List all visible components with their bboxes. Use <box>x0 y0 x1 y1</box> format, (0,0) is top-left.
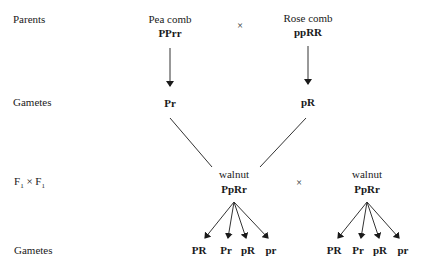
f1-right-phenotype: walnut <box>352 168 382 180</box>
line-gamete2-to-f1 <box>260 118 306 167</box>
parent1-genotype: PPrr <box>158 27 181 39</box>
parent1-phenotype: Pea comb <box>148 13 191 25</box>
line-gamete1-to-f1 <box>170 118 212 167</box>
f1-left-gamete: pr <box>266 244 277 256</box>
f1-right-gamete: pR <box>373 244 387 256</box>
f1-right-gamete: Pr <box>352 244 364 256</box>
f1-cross-symbol: × <box>296 177 302 189</box>
label-f1-cross: F1 × F1 <box>14 175 45 192</box>
cross-symbol: × <box>237 20 243 32</box>
label-parents: Parents <box>13 13 45 25</box>
f1-right-gamete: PR <box>327 244 342 256</box>
parent2-phenotype: Rose comb <box>283 12 332 24</box>
f1-left-phenotype: walnut <box>219 168 249 180</box>
f1-left-gamete: pR <box>241 244 255 256</box>
label-gametes-f2: Gametes <box>14 244 52 256</box>
f1-left-gamete: Pr <box>220 244 232 256</box>
label-gametes: Gametes <box>13 96 51 108</box>
f1-left-gamete: PR <box>192 244 207 256</box>
parent2-gamete: pR <box>301 96 315 108</box>
parent2-genotype: ppRR <box>294 26 322 38</box>
f1-left-genotype: PpRr <box>221 183 247 195</box>
connector-lines <box>0 0 425 270</box>
f1-right-gamete: pr <box>398 244 409 256</box>
f1-right-genotype: PpRr <box>354 183 380 195</box>
parent1-gamete: Pr <box>164 97 176 109</box>
